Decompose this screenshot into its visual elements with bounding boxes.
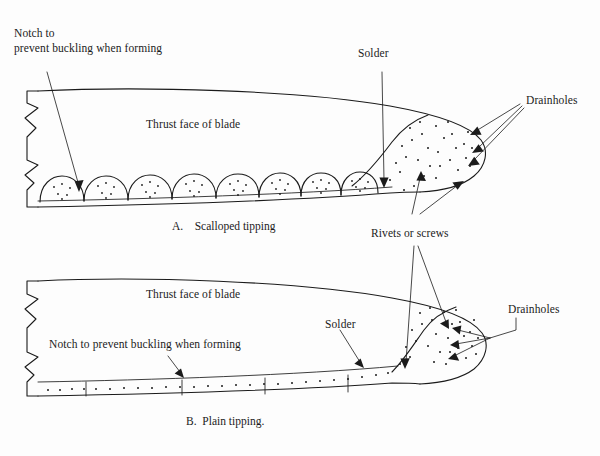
notch-tick-row-b xyxy=(86,375,348,396)
leader-solder-b xyxy=(340,330,360,362)
leader-drainhole-b2 xyxy=(456,338,490,344)
leader-rivets-b2 xyxy=(418,246,446,322)
label-notch-b: Notch to prevent buckling when forming xyxy=(49,338,241,350)
label-notch-a-line2: prevent buckling when forming xyxy=(14,42,162,54)
blade-top-outline-b xyxy=(38,279,486,384)
label-drainholes-b: Drainholes xyxy=(508,303,559,315)
arrowhead-drainhole-a1 xyxy=(470,127,482,135)
arrowhead-solder-b xyxy=(354,359,364,368)
arrowhead-rivets-b1 xyxy=(400,358,409,369)
leader-drainhole-b-elbow xyxy=(490,318,516,338)
caption-panel-a: A. Scalloped tipping xyxy=(172,220,276,232)
leader-rivets-b1 xyxy=(406,246,414,362)
arrowhead-notch-b xyxy=(175,368,184,378)
arrowhead-drainhole-b1 xyxy=(452,325,461,334)
label-rivets-a: Rivets or screws xyxy=(371,227,449,239)
arrowhead-rivets-a2 xyxy=(452,181,464,190)
label-drainholes-a: Drainholes xyxy=(526,94,577,106)
label-solder-b: Solder xyxy=(325,318,356,330)
leader-rivets-a1 xyxy=(412,178,420,214)
arrowhead-solder-a xyxy=(379,178,388,188)
solder-boundary-a xyxy=(352,115,428,186)
rivet-dot-row-b xyxy=(47,372,389,391)
figure-plate: Notch to prevent buckling when forming T… xyxy=(0,0,600,456)
panel-a-drawing xyxy=(25,72,524,214)
label-notch-a: Notch to prevent buckling when forming xyxy=(14,26,234,57)
label-thrust-face-b: Thrust face of blade xyxy=(146,288,240,300)
break-edge-a xyxy=(25,91,38,207)
solder-boundary-b xyxy=(392,307,456,372)
leader-rivets-a2 xyxy=(420,185,458,214)
tipping-band-topline-b xyxy=(38,366,398,382)
leader-solder-a xyxy=(382,72,384,180)
panel-b-drawing xyxy=(25,246,516,396)
label-thrust-face-a: Thrust face of blade xyxy=(146,118,240,130)
leader-notch-b xyxy=(168,356,180,372)
arrowhead-drainhole-a3 xyxy=(468,157,480,166)
leader-drainhole-a1 xyxy=(476,104,520,131)
caption-panel-b: B. Plain tipping. xyxy=(186,415,264,427)
break-edge-b xyxy=(25,281,38,396)
label-notch-a-line1: Notch to xyxy=(14,27,55,39)
leader-drainhole-a2 xyxy=(478,106,522,148)
label-solder-a: Solder xyxy=(358,47,389,59)
arrowhead-drainhole-b2 xyxy=(450,340,460,349)
arrowhead-rivets-b2 xyxy=(440,319,449,329)
leader-drainhole-b1 xyxy=(458,330,490,338)
line-drawing-canvas xyxy=(0,0,600,456)
leader-drainhole-a3 xyxy=(474,108,524,160)
